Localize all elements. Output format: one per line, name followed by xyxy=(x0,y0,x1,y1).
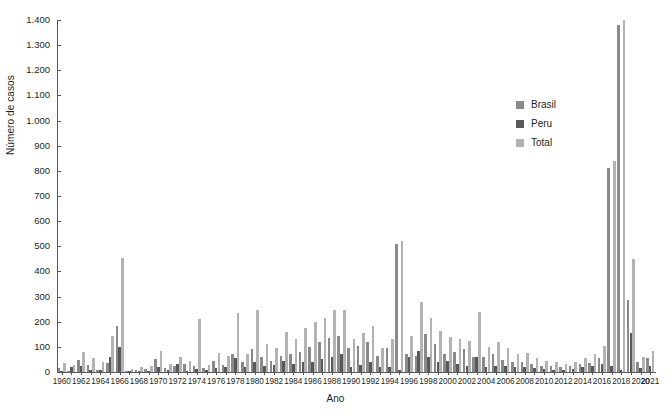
bar xyxy=(584,358,587,372)
x-tick xyxy=(650,372,651,375)
bar xyxy=(488,347,491,372)
x-tick-label: 1972 xyxy=(168,377,186,386)
x-tick-label: 1990 xyxy=(342,377,360,386)
x-tick-label: 1986 xyxy=(303,377,321,386)
x-tick xyxy=(332,372,333,375)
bar xyxy=(420,302,423,372)
x-tick-label: 1968 xyxy=(130,377,148,386)
y-tick-label: 500 xyxy=(34,240,50,251)
bar xyxy=(607,168,610,372)
x-tick xyxy=(168,372,169,375)
x-tick xyxy=(293,372,294,375)
y-tick-label: 700 xyxy=(34,190,50,201)
x-tick xyxy=(563,372,564,375)
bar xyxy=(285,332,288,372)
bar xyxy=(353,339,356,372)
bar xyxy=(131,369,134,372)
y-tick-label: 1.300 xyxy=(26,39,50,50)
x-tick xyxy=(390,372,391,375)
bar xyxy=(189,361,192,372)
y-tick-label: 1.400 xyxy=(26,14,50,25)
x-tick-label: 1976 xyxy=(207,377,225,386)
bar xyxy=(410,336,413,372)
legend-label: Peru xyxy=(531,118,552,129)
x-tick xyxy=(313,372,314,375)
x-tick xyxy=(235,372,236,375)
bar xyxy=(73,365,76,372)
bar xyxy=(295,339,298,372)
bar xyxy=(652,351,655,372)
x-axis-ticks: 1960196219641966196819701972197419761978… xyxy=(57,372,656,382)
x-tick-label: 1960 xyxy=(53,377,71,386)
x-tick xyxy=(399,372,400,375)
x-tick xyxy=(322,372,323,375)
x-tick xyxy=(467,372,468,375)
x-tick xyxy=(149,372,150,375)
bar xyxy=(468,341,471,372)
bar xyxy=(227,356,230,372)
bar xyxy=(121,258,124,372)
bar xyxy=(497,342,500,372)
bar xyxy=(623,20,626,372)
bar xyxy=(439,331,442,372)
legend-swatch-icon xyxy=(516,139,524,147)
bar xyxy=(275,348,278,372)
bar xyxy=(150,366,153,372)
x-tick xyxy=(486,372,487,375)
x-tick xyxy=(534,372,535,375)
x-tick-label: 1970 xyxy=(149,377,167,386)
x-tick-label: 1984 xyxy=(284,377,302,386)
bar xyxy=(642,357,645,372)
x-tick xyxy=(573,372,574,375)
x-tick xyxy=(583,372,584,375)
y-tick-label: 400 xyxy=(34,265,50,276)
x-tick xyxy=(612,372,613,375)
x-tick xyxy=(274,372,275,375)
bar xyxy=(343,310,346,372)
bar xyxy=(430,318,433,372)
x-tick-label: 1978 xyxy=(226,377,244,386)
x-tick-label: 2012 xyxy=(554,377,572,386)
bar xyxy=(372,326,375,373)
x-tick-label: 2006 xyxy=(496,377,514,386)
x-tick-label: 1996 xyxy=(400,377,418,386)
bar xyxy=(381,348,384,372)
x-tick-label: 1988 xyxy=(323,377,341,386)
bar xyxy=(314,322,317,372)
bar xyxy=(160,351,163,372)
y-tick-label: 800 xyxy=(34,165,50,176)
x-tick xyxy=(496,372,497,375)
bar xyxy=(632,259,635,372)
bar xyxy=(111,336,114,372)
bar-chart-figure: Número de casos Ano 01002003004005006007… xyxy=(0,0,671,416)
legend-item-peru[interactable]: Peru xyxy=(516,114,556,133)
bar xyxy=(140,367,143,372)
x-tick xyxy=(621,372,622,375)
x-tick xyxy=(525,372,526,375)
bar xyxy=(266,344,269,372)
x-tick-label: 1982 xyxy=(265,377,283,386)
x-tick xyxy=(641,372,642,375)
y-tick-label: 200 xyxy=(34,316,50,327)
x-tick-label: 2008 xyxy=(516,377,534,386)
x-tick xyxy=(419,372,420,375)
bar xyxy=(459,339,462,372)
x-tick xyxy=(245,372,246,375)
legend-item-brasil[interactable]: Brasil xyxy=(516,95,556,114)
bar xyxy=(63,363,66,372)
x-tick xyxy=(370,372,371,375)
legend-item-total[interactable]: Total xyxy=(516,133,556,152)
bar xyxy=(391,339,394,372)
bar xyxy=(362,333,365,372)
y-tick-label: 100 xyxy=(34,341,50,352)
x-axis-title: Ano xyxy=(0,393,671,404)
bar xyxy=(256,310,259,372)
x-tick-label: 1962 xyxy=(72,377,90,386)
x-tick-label: 1980 xyxy=(246,377,264,386)
bar xyxy=(517,354,520,372)
bar xyxy=(246,354,249,372)
x-tick xyxy=(187,372,188,375)
legend-label: Brasil xyxy=(531,99,556,110)
plot-area xyxy=(57,20,655,372)
bar xyxy=(555,362,558,372)
